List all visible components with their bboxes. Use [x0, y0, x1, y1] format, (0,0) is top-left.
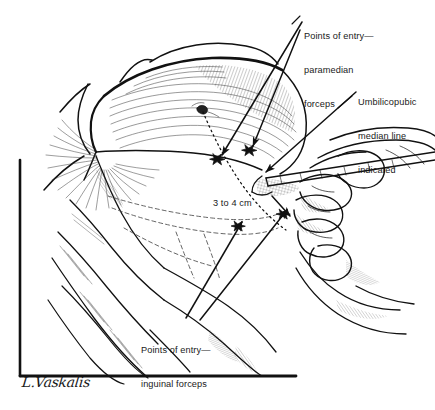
- leader-paramedian-tick: [292, 16, 300, 24]
- label-paramedian-line1: Points of entry—: [304, 31, 374, 42]
- label-umbilicopubic-line3: indicated: [358, 165, 417, 176]
- abdomen-shading-upper: [196, 65, 295, 132]
- label-measurement: 3 to 4 cm: [213, 198, 252, 209]
- arrow-inguinal-left: [186, 222, 242, 318]
- inguinal-fold-dashed: [108, 196, 278, 280]
- label-points-of-entry-inguinal: Points of entry— inguinal forceps: [141, 322, 211, 402]
- label-inguinal-line1: Points of entry—: [141, 345, 211, 356]
- label-umbilicopubic-median-line: Umbilicopubic median line indicated: [358, 74, 417, 188]
- artist-signature: L.Vaskalis: [21, 374, 91, 390]
- umbilicus-icon: [192, 103, 219, 117]
- umbilicopubic-median-line: [203, 112, 286, 230]
- label-inguinal-line2: inguinal forceps: [141, 379, 211, 390]
- flank-hatching: [46, 120, 159, 210]
- thigh-hatching: [60, 214, 142, 368]
- label-umbilicopubic-line1: Umbilicopubic: [358, 97, 417, 108]
- label-umbilicopubic-line2: median line: [358, 131, 417, 142]
